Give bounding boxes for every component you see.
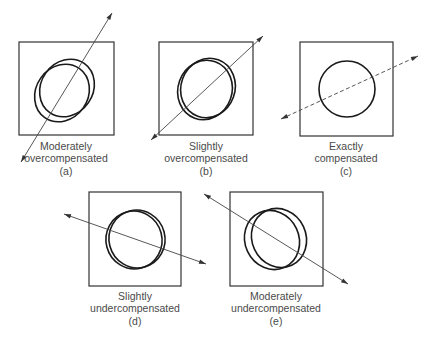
trace-ellipse: [235, 201, 309, 278]
caption-line-2: overcompensated: [24, 152, 108, 164]
caption-line-1: Slightly: [118, 290, 153, 302]
caption-line-2: compensated: [314, 152, 377, 164]
panel-tag: (c): [340, 165, 352, 177]
panel-a: Moderatelyovercompensated(a): [19, 13, 114, 177]
panel-d: Slightlyundercompensated(d): [64, 192, 206, 327]
trace-ellipse: [242, 199, 316, 276]
trace-ellipse: [28, 49, 105, 128]
arrowhead-icon: [199, 260, 206, 264]
caption-line-1: Moderately: [40, 140, 93, 152]
arrowhead-icon: [106, 13, 112, 20]
panel-tag: (e): [270, 315, 283, 327]
trace-ellipse: [23, 54, 100, 133]
panel-e: Moderatelyundercompensated(e): [204, 192, 348, 327]
arrowhead-icon: [204, 194, 211, 200]
trace-ellipse: [102, 204, 171, 275]
arrowhead-icon: [281, 114, 288, 119]
axis-arrow: [64, 214, 206, 264]
caption-line-2: overcompensated: [164, 152, 248, 164]
axis-arrow: [281, 56, 418, 119]
caption-line-1: Moderately: [250, 290, 303, 302]
caption-line-2: undercompensated: [90, 302, 180, 314]
arrowhead-icon: [411, 56, 418, 61]
caption-line-1: Exactly: [329, 140, 364, 152]
panel-b: Slightlyovercompensated(b): [151, 36, 263, 177]
caption-line-2: undercompensated: [231, 302, 321, 314]
caption-line-1: Slightly: [189, 140, 224, 152]
arrowhead-icon: [341, 278, 348, 284]
panel-tag: (d): [129, 315, 142, 327]
arrowhead-icon: [64, 214, 71, 218]
compensation-diagram: Moderatelyovercompensated(a)Slightlyover…: [0, 0, 433, 341]
panel-c: Exactlycompensated(c): [281, 42, 418, 177]
trace-ellipse: [99, 205, 168, 276]
panel-tag: (a): [60, 165, 73, 177]
panel-tag: (b): [200, 165, 213, 177]
axis-arrow: [204, 194, 348, 284]
axis-arrow: [151, 36, 263, 140]
